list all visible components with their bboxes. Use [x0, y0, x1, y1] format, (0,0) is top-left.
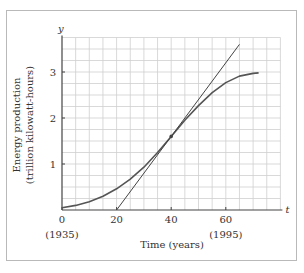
- y-axis-label-line: Energy production: [11, 77, 22, 173]
- tangent-line: [117, 44, 240, 210]
- x-tick-label: 20: [110, 214, 123, 225]
- energy-curve: [62, 73, 259, 208]
- y-axis-label: Energy production(trillion kilowatt-hour…: [11, 66, 35, 184]
- tangent-point: [169, 135, 173, 139]
- x-tick-label: 60: [219, 214, 232, 225]
- x-tick-sublabel: (1995): [209, 229, 242, 240]
- x-tick-label: 0: [59, 214, 65, 225]
- y-tick-label: 3: [50, 67, 56, 78]
- grid-lines: [62, 38, 280, 211]
- y-axis-label-line: (trillion kilowatt-hours): [24, 66, 35, 184]
- y-axis-variable: y: [57, 23, 64, 34]
- x-tick-label: 40: [165, 214, 178, 225]
- x-tick-sublabel: (1935): [45, 229, 78, 240]
- y-tick-label: 2: [50, 113, 56, 124]
- energy-production-chart: 0(1935)204060(1995)123 t y Time (years) …: [0, 0, 304, 273]
- y-tick-label: 1: [50, 159, 56, 170]
- x-axis-variable: t: [285, 204, 290, 215]
- data-series: [62, 44, 259, 210]
- x-axis-label: Time (years): [140, 239, 204, 250]
- axes: [62, 36, 282, 211]
